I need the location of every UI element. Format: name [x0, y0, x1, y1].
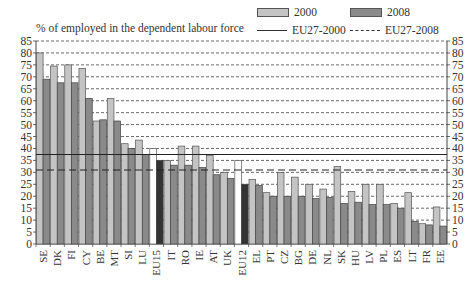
- bar-2008-uk: [227, 178, 234, 244]
- bar-2008-fr: [426, 225, 433, 244]
- y-tick-label-left: 55: [21, 107, 33, 119]
- bar-2000-dk: [51, 66, 58, 244]
- bar-chart: 0055101015152020252530303535404045455050…: [0, 0, 476, 287]
- y-tick-label-left: 35: [21, 154, 33, 166]
- y-tick-label-right: 5: [452, 226, 458, 238]
- x-tick-label-pt: PT: [264, 250, 276, 263]
- x-tick-label-cy: CY: [80, 250, 92, 265]
- x-tick-label-es: ES: [391, 250, 403, 263]
- bar-2000-pt: [263, 193, 270, 244]
- y-tick-label-left: 5: [26, 226, 32, 238]
- x-tick-label-dk: DK: [51, 250, 63, 266]
- y-tick-label-right: 65: [452, 83, 464, 95]
- bar-2000-eu15: [150, 148, 157, 244]
- bar-2000-be: [93, 121, 100, 244]
- bar-2008-mt: [114, 121, 121, 244]
- bar-2000-lu: [136, 140, 143, 244]
- bar-2000-eu12: [235, 160, 242, 244]
- bar-2008-de: [312, 199, 319, 244]
- bar-2000-ie: [192, 146, 199, 244]
- x-tick-label-it: IT: [165, 250, 177, 261]
- x-tick-label-bg: BG: [292, 250, 304, 265]
- bar-2000-fr: [419, 224, 426, 244]
- bar-2000-ro: [178, 146, 185, 244]
- bar-2008-ee: [440, 226, 447, 244]
- bar-2008-dk: [57, 83, 64, 244]
- bar-2008-pl: [383, 205, 390, 244]
- bar-2008-bg: [298, 196, 305, 244]
- y-tick-label-left: 60: [21, 95, 33, 107]
- bar-2008-si: [128, 148, 135, 244]
- y-tick-label-right: 75: [452, 59, 464, 71]
- y-tick-label-left: 70: [21, 71, 33, 83]
- x-tick-label-at: AT: [207, 250, 219, 264]
- bar-2008-ie: [199, 168, 206, 244]
- y-tick-label-left: 45: [21, 131, 33, 143]
- x-tick-label-be: BE: [94, 250, 106, 264]
- y-tick-label-left: 10: [21, 214, 33, 226]
- bar-2000-se: [36, 53, 43, 244]
- x-tick-label-ee: EE: [434, 250, 446, 264]
- bar-2008-es: [397, 208, 404, 244]
- bar-2000-pl: [377, 184, 384, 244]
- bar-2000-sk: [334, 166, 341, 244]
- y-tick-label-right: 30: [452, 166, 464, 178]
- x-tick-label-pl: PL: [377, 250, 389, 263]
- x-tick-label-fi: FI: [65, 250, 77, 260]
- y-tick-label-left: 25: [21, 178, 33, 190]
- y-tick-label-left: 80: [21, 47, 33, 59]
- bar-2008-se: [43, 79, 50, 244]
- x-tick-label-uk: UK: [221, 250, 233, 266]
- bar-2008-el: [256, 185, 263, 244]
- y-tick-label-left: 75: [21, 59, 33, 71]
- bar-2000-cy: [79, 68, 86, 244]
- bar-2000-el: [249, 180, 256, 244]
- x-tick-label-ie: IE: [193, 250, 205, 261]
- y-tick-label-right: 50: [452, 119, 464, 131]
- y-tick-label-left: 15: [21, 202, 33, 214]
- bar-2000-it: [164, 160, 171, 244]
- y-tick-label-right: 85: [452, 35, 464, 47]
- bar-2008-nl: [327, 197, 334, 244]
- x-tick-label-nl: NL: [321, 250, 333, 265]
- bar-2008-sk: [341, 203, 348, 244]
- bar-2008-eu12: [242, 184, 249, 244]
- x-tick-label-se: SE: [37, 250, 49, 263]
- x-tick-label-lv: LV: [363, 250, 375, 264]
- x-tick-label-mt: MT: [108, 250, 120, 267]
- bar-2008-ro: [185, 165, 192, 244]
- bar-2008-lv: [369, 205, 376, 244]
- bar-2000-lv: [362, 184, 369, 244]
- x-tick-label-eu12: EU12: [236, 250, 248, 276]
- y-tick-label-right: 35: [452, 154, 464, 166]
- bar-2008-cz: [284, 196, 291, 244]
- y-tick-label-left: 0: [26, 238, 32, 250]
- bar-2008-lu: [142, 154, 149, 244]
- y-tick-label-left: 30: [21, 166, 33, 178]
- bar-2008-lt: [412, 221, 419, 244]
- y-tick-label-right: 45: [452, 131, 464, 143]
- y-tick-label-right: 55: [452, 107, 464, 119]
- y-tick-label-left: 40: [21, 142, 33, 154]
- bar-2008-cy: [86, 98, 93, 244]
- y-tick-label-left: 20: [21, 190, 33, 202]
- x-tick-label-eu15: EU15: [150, 250, 162, 276]
- bar-2008-eu15: [156, 160, 163, 244]
- bar-2000-nl: [320, 189, 327, 244]
- bar-2000-de: [306, 184, 313, 244]
- y-tick-label-right: 0: [452, 238, 458, 250]
- x-tick-label-de: DE: [306, 250, 318, 265]
- x-tick-label-ro: RO: [179, 250, 191, 265]
- bar-2008-fi: [71, 83, 78, 244]
- y-tick-label-right: 80: [452, 47, 464, 59]
- bar-2008-at: [213, 175, 220, 244]
- x-tick-label-fr: FR: [420, 249, 432, 263]
- x-tick-label-cz: CZ: [278, 250, 290, 264]
- bar-2000-si: [121, 144, 128, 244]
- y-tick-label-right: 40: [452, 142, 464, 154]
- x-tick-label-sk: SK: [335, 250, 347, 264]
- y-tick-label-left: 50: [21, 119, 33, 131]
- bar-2008-it: [171, 165, 178, 244]
- x-tick-label-lu: LU: [136, 250, 148, 265]
- bar-2000-es: [391, 203, 398, 244]
